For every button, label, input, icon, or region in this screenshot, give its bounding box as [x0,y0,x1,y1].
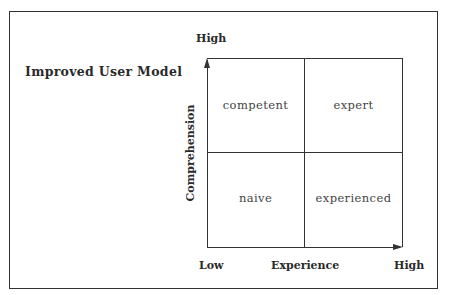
quadrant-competent: competent [207,98,304,112]
y-axis-high-label: High [196,32,226,45]
diagram-title: Improved User Model [25,64,182,79]
x-axis-high-label: High [394,259,424,272]
y-axis-line [207,60,208,247]
quadrant-experienced: experienced [305,191,402,205]
y-axis-arrow-icon [204,58,210,68]
quadrant-naive: naive [207,191,304,205]
x-axis-arrow-icon [393,244,403,250]
x-axis-line [207,247,399,248]
y-axis-label: Comprehension [184,105,197,202]
grid-horizontal-divider [207,152,403,153]
x-axis-label: Experience [271,259,339,272]
x-axis-low-label: Low [199,259,224,272]
quadrant-expert: expert [305,98,402,112]
